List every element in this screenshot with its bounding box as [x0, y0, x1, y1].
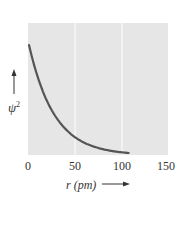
x-tick-100: 100: [113, 159, 131, 174]
x-axis-arrow-head: [123, 182, 130, 187]
y-axis-label: ψ2: [8, 100, 20, 116]
y-label-exponent: 2: [16, 100, 20, 109]
y-label-base: ψ: [8, 100, 16, 115]
decay-curve: [29, 45, 129, 153]
x-tick-50: 50: [69, 159, 81, 174]
y-axis-arrow-head: [12, 69, 17, 76]
x-tick-150: 150: [157, 159, 175, 174]
x-axis-label: r (pm): [66, 178, 96, 193]
x-tick-0: 0: [25, 159, 31, 174]
